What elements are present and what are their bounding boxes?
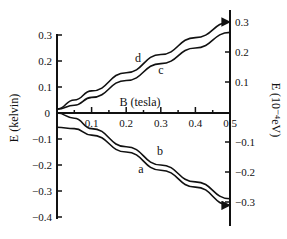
- left-tick-label: 0.2: [38, 55, 52, 67]
- left-tick-label: 0.1: [38, 81, 52, 93]
- energy-vs-field-chart: 0.30.20.1−0.1−0.2−0.3−0.4 0.30.20.1−0.1−…: [0, 0, 287, 239]
- curve-label-c: c: [158, 63, 163, 77]
- x-tick-label: 0.3: [154, 117, 168, 129]
- left-tick-label: −0.1: [32, 133, 52, 145]
- left-tick-label: 0.3: [38, 29, 52, 41]
- left-tick-label: −0.4: [32, 211, 52, 223]
- left-tick-label: −0.3: [32, 185, 52, 197]
- right-y-tick-labels: 0.30.20.1−0.1−0.2−0.3: [235, 16, 255, 208]
- right-tick-label: 0.1: [235, 76, 249, 88]
- x-tick-label: 0.5: [223, 117, 237, 129]
- x-axis-label: B (tesla): [120, 95, 161, 109]
- left-y-axis-label: E (kelvin): [7, 94, 21, 142]
- left-y-tick-labels: 0.30.20.1−0.1−0.2−0.3−0.4: [32, 29, 52, 223]
- right-tick-label: 0.3: [235, 16, 249, 28]
- curve-label-b: b: [157, 144, 163, 158]
- axes: [57, 10, 230, 226]
- right-tick-label: −0.2: [235, 166, 255, 178]
- right-tick-label: −0.3: [235, 196, 255, 208]
- right-tick-label: −0.1: [235, 136, 255, 148]
- x-tick-label: 0.4: [189, 117, 203, 129]
- x-tick-labels: 0.10.20.30.40.5: [85, 117, 238, 129]
- right-y-axis-label: E (10⁻⁴eV): [269, 83, 283, 138]
- curve-label-d: d: [135, 51, 141, 65]
- x-tick-label: 0.2: [119, 117, 133, 129]
- left-tick-label: −0.2: [32, 159, 52, 171]
- curve-label-a: a: [138, 162, 144, 176]
- right-tick-label: 0.2: [235, 46, 249, 58]
- curve-b: [57, 113, 230, 199]
- zero-label: 0: [45, 107, 51, 119]
